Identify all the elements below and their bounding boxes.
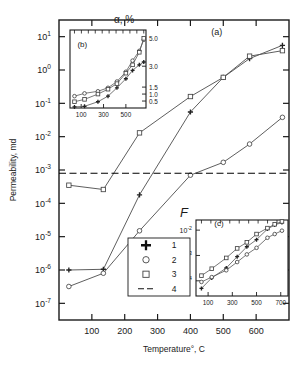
square-marker xyxy=(266,226,270,230)
circle-marker xyxy=(143,257,149,263)
x-tick-label: 100 xyxy=(203,299,214,306)
panel-a-y-axis-title: Permeability, md xyxy=(8,138,18,201)
square-marker xyxy=(115,82,119,86)
square-marker xyxy=(280,48,284,52)
square-marker xyxy=(255,232,259,236)
x-tick-label: 600 xyxy=(249,326,264,336)
circle-marker xyxy=(235,260,239,264)
square-marker xyxy=(137,50,141,54)
circle-marker xyxy=(280,115,285,120)
panel-b-label: (b) xyxy=(77,40,87,49)
circle-marker xyxy=(101,271,106,276)
legend-item-label: 3 xyxy=(172,269,177,279)
square-marker xyxy=(73,100,77,104)
x-tick-label: 700 xyxy=(275,299,286,306)
x-tick-label: 500 xyxy=(121,111,132,118)
square-marker xyxy=(245,241,249,245)
circle-marker xyxy=(245,253,249,257)
square-marker xyxy=(143,271,149,277)
square-marker xyxy=(67,183,71,187)
square-marker xyxy=(273,222,277,226)
panel-c-label: (c) xyxy=(214,219,224,228)
panel-c: 10-210-310-4 100300500700 F (c) xyxy=(180,205,288,306)
circle-marker xyxy=(266,236,270,240)
square-marker xyxy=(210,267,214,271)
circle-marker xyxy=(280,229,284,233)
legend-item-label: 1 xyxy=(172,240,177,250)
square-marker xyxy=(83,98,87,102)
legend-frame xyxy=(128,238,190,296)
y-tick-label: 3.0 xyxy=(149,63,158,70)
y-tick-label: 5.0 xyxy=(149,35,158,42)
circle-marker xyxy=(83,92,87,96)
square-marker xyxy=(101,187,105,191)
panel-b: 0.51.01.53.05.0 100300500 α, % (b) xyxy=(70,14,158,118)
x-tick-label: 100 xyxy=(76,111,87,118)
panel-b-x-tick-labels: 100300500 xyxy=(76,111,132,118)
panel-a-x-axis-title: Temperature°, C xyxy=(143,344,205,354)
x-tick-label: 100 xyxy=(84,326,99,336)
square-marker xyxy=(124,71,128,75)
square-marker xyxy=(224,256,228,260)
circle-marker xyxy=(73,94,77,98)
y-tick-label: 0.5 xyxy=(149,98,158,105)
y-tick-label: 1.0 xyxy=(149,91,158,98)
legend-item-label: 2 xyxy=(172,255,177,265)
square-marker xyxy=(221,75,225,79)
circle-marker xyxy=(137,228,142,233)
circle-marker xyxy=(255,246,259,250)
circle-marker xyxy=(67,284,72,289)
circle-marker xyxy=(224,268,228,272)
legend-item-label: 4 xyxy=(172,284,177,294)
panel-a-label: (a) xyxy=(211,27,222,37)
x-tick-label: 500 xyxy=(216,326,231,336)
square-marker xyxy=(106,87,110,91)
x-tick-label: 500 xyxy=(251,299,262,306)
square-marker xyxy=(280,220,284,224)
x-tick-label: 300 xyxy=(227,299,238,306)
x-tick-label: 400 xyxy=(183,326,198,336)
circle-marker xyxy=(221,160,226,165)
square-marker xyxy=(142,37,146,41)
square-marker xyxy=(131,63,135,67)
y-tick-label: 1.5 xyxy=(149,84,158,91)
circle-marker xyxy=(247,142,252,147)
square-marker xyxy=(235,247,239,251)
circle-marker xyxy=(210,275,214,279)
circle-marker xyxy=(273,232,277,236)
square-marker xyxy=(247,54,251,58)
square-marker xyxy=(137,131,141,135)
square-marker xyxy=(200,274,204,278)
panel-b-title: α, % xyxy=(114,14,134,25)
chart-canvas: 10110010-110-210-310-410-510-610-7 10020… xyxy=(0,0,305,366)
legend: 1234 xyxy=(128,238,190,296)
figure-root: 10110010-110-210-310-410-510-610-7 10020… xyxy=(0,0,305,366)
x-tick-label: 300 xyxy=(150,326,165,336)
square-marker xyxy=(96,92,100,96)
x-tick-label: 200 xyxy=(117,326,132,336)
panel-c-title: F xyxy=(180,205,189,220)
circle-marker xyxy=(200,280,204,284)
x-tick-label: 300 xyxy=(98,111,109,118)
square-marker xyxy=(188,94,192,98)
